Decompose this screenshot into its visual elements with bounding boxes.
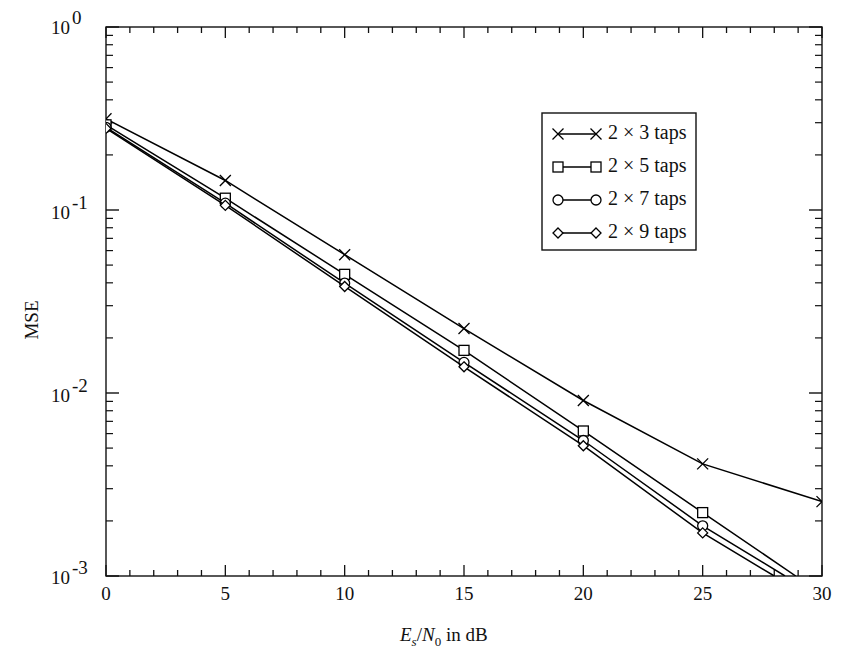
y-tick-exponent-1: -1: [72, 192, 88, 213]
legend-label: 2 × 5 taps: [608, 154, 687, 177]
figure-container: 0 5 10 15 20 25 30 10 0 10 -1 10 -2 10 -…: [0, 0, 857, 669]
y-tick-exponent-3: -3: [72, 557, 88, 578]
x-tick-label-20: 20: [574, 583, 593, 604]
legend-label: 2 × 7 taps: [608, 187, 687, 210]
x-tick-label-15: 15: [455, 583, 474, 604]
y-tick-mantissa-2: 10: [51, 385, 70, 406]
square-marker: [591, 162, 601, 172]
legend: 2 × 3 taps2 × 5 taps2 × 7 taps2 × 9 taps: [542, 113, 696, 250]
x-tick-label-5: 5: [221, 583, 231, 604]
circle-marker: [591, 195, 601, 205]
square-marker: [459, 345, 469, 355]
x-tick-label-0: 0: [101, 583, 111, 604]
y-tick-mantissa-0: 10: [51, 17, 70, 38]
circle-marker: [553, 195, 563, 205]
y-tick-exponent-0: 0: [72, 7, 82, 28]
y-tick-exponent-2: -2: [72, 375, 88, 396]
chart-background: [0, 0, 857, 669]
legend-label: 2 × 3 taps: [608, 121, 687, 144]
x-tick-label-30: 30: [813, 583, 832, 604]
square-marker: [553, 162, 563, 172]
legend-label: 2 × 9 taps: [608, 220, 687, 243]
y-tick-mantissa-3: 10: [51, 567, 70, 588]
square-marker: [578, 426, 588, 436]
x-axis-label-tail: in dB: [441, 624, 487, 645]
y-axis-label: MSE: [21, 300, 42, 339]
chart-svg: 0 5 10 15 20 25 30 10 0 10 -1 10 -2 10 -…: [0, 0, 857, 669]
x-tick-label-25: 25: [693, 583, 712, 604]
y-tick-mantissa-1: 10: [51, 202, 70, 223]
x-axis-label-E: E: [399, 624, 412, 645]
square-marker: [698, 508, 708, 518]
x-tick-label-10: 10: [335, 583, 354, 604]
